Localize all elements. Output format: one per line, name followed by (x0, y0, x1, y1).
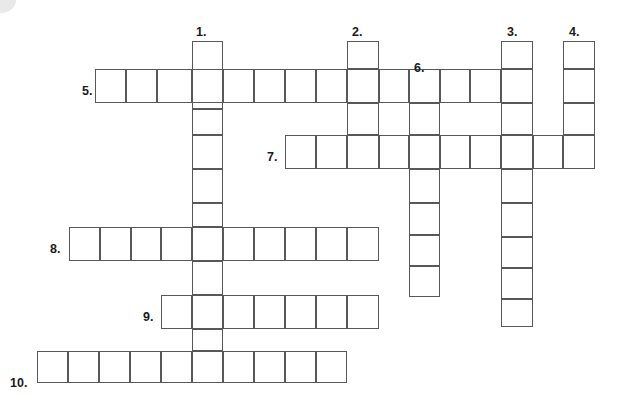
crossword-cell-across-10[interactable] (254, 351, 285, 383)
crossword-cell-across-5[interactable] (223, 69, 254, 103)
crossword-cell-down-1[interactable] (192, 109, 223, 135)
crossword-cell-across-8[interactable] (192, 227, 223, 261)
crossword-cell-down-6[interactable] (409, 266, 440, 297)
crossword-cell-down-3[interactable] (501, 299, 533, 327)
clue-number-down-6: 6. (414, 62, 424, 75)
crossword-cell-across-10[interactable] (285, 351, 316, 383)
crossword-cell-across-9[interactable] (161, 295, 192, 329)
clue-number-across-9: 9. (143, 311, 153, 324)
crossword-cell-across-9[interactable] (285, 295, 316, 329)
crossword-cell-down-4[interactable] (563, 41, 595, 69)
crossword-cell-down-6[interactable] (409, 235, 440, 266)
crossword-cell-down-1[interactable] (192, 329, 223, 351)
crossword-cell-down-3[interactable] (501, 237, 533, 268)
crossword-cell-across-10[interactable] (99, 351, 130, 383)
crossword-cell-across-9[interactable] (223, 295, 254, 329)
crossword-cell-down-6[interactable] (409, 103, 440, 135)
crossword-cell-across-10[interactable] (130, 351, 161, 383)
crossword-cell-across-8[interactable] (69, 227, 100, 261)
crossword-cell-across-9[interactable] (316, 295, 347, 329)
clue-number-down-4: 4. (569, 26, 579, 39)
crossword-cell-across-8[interactable] (254, 227, 285, 261)
clue-number-across-5: 5. (82, 85, 92, 98)
crossword-cell-across-8[interactable] (223, 227, 254, 261)
crossword-cell-down-3[interactable] (501, 203, 533, 237)
crossword-cell-across-9[interactable] (192, 295, 223, 329)
crossword-cell-across-7[interactable] (285, 135, 316, 169)
crossword-cell-down-3[interactable] (501, 41, 533, 69)
crossword-cell-across-5[interactable] (254, 69, 285, 103)
clue-number-down-3: 3. (507, 26, 517, 39)
crossword-cell-down-4[interactable] (563, 69, 595, 103)
crossword-cell-across-5[interactable] (470, 69, 501, 103)
crossword-cell-down-1[interactable] (192, 203, 223, 227)
crossword-cell-across-10[interactable] (223, 351, 254, 383)
crossword-cell-across-5[interactable] (440, 69, 470, 103)
crossword-cell-across-5[interactable] (347, 69, 379, 103)
crossword-cell-down-6[interactable] (409, 169, 440, 203)
crossword-cell-across-5[interactable] (285, 69, 316, 103)
crossword-cell-across-8[interactable] (161, 227, 192, 261)
page-corner-shadow (0, 0, 16, 13)
crossword-cell-across-7[interactable] (533, 135, 563, 169)
crossword-cell-across-7[interactable] (563, 135, 595, 169)
crossword-cell-across-5[interactable] (126, 69, 157, 103)
crossword-cell-down-1[interactable] (192, 261, 223, 295)
crossword-cell-across-10[interactable] (68, 351, 99, 383)
crossword-cell-across-10[interactable] (37, 351, 68, 383)
crossword-cell-across-7[interactable] (379, 135, 409, 169)
crossword-cell-down-6[interactable] (409, 203, 440, 235)
clue-number-down-1: 1. (196, 26, 206, 39)
crossword-cell-across-5[interactable] (192, 69, 223, 103)
crossword-puzzle-grid: 1.2.3.4.5.6.7.8.9.10. (0, 0, 617, 416)
crossword-cell-across-8[interactable] (316, 227, 347, 261)
clue-number-across-8: 8. (50, 243, 60, 256)
crossword-cell-across-9[interactable] (254, 295, 285, 329)
crossword-cell-down-2[interactable] (347, 103, 379, 135)
crossword-cell-across-7[interactable] (316, 135, 347, 169)
crossword-cell-down-3[interactable] (501, 169, 533, 203)
crossword-cell-across-5[interactable] (316, 69, 347, 103)
crossword-cell-down-2[interactable] (347, 41, 379, 69)
crossword-cell-across-8[interactable] (131, 227, 161, 261)
crossword-cell-down-1[interactable] (192, 169, 223, 203)
crossword-cell-across-7[interactable] (470, 135, 501, 169)
crossword-cell-down-1[interactable] (192, 135, 223, 169)
crossword-cell-down-3[interactable] (501, 103, 533, 135)
clue-number-across-10: 10. (10, 377, 27, 390)
crossword-cell-across-8[interactable] (285, 227, 316, 261)
crossword-cell-across-5[interactable] (157, 69, 192, 103)
crossword-cell-across-7[interactable] (347, 135, 379, 169)
crossword-cell-down-3[interactable] (501, 268, 533, 299)
crossword-cell-across-7[interactable] (409, 135, 440, 169)
crossword-cell-across-5[interactable] (379, 69, 409, 103)
crossword-cell-across-10[interactable] (192, 351, 223, 383)
clue-number-across-7: 7. (267, 151, 277, 164)
crossword-cell-across-7[interactable] (440, 135, 470, 169)
crossword-cell-across-7[interactable] (501, 135, 533, 169)
crossword-cell-across-10[interactable] (316, 351, 347, 383)
crossword-cell-across-9[interactable] (347, 295, 379, 329)
crossword-cell-down-4[interactable] (563, 103, 595, 135)
crossword-cell-across-8[interactable] (100, 227, 131, 261)
crossword-cell-across-5[interactable] (501, 69, 533, 103)
crossword-cell-across-8[interactable] (347, 227, 379, 261)
crossword-cell-across-10[interactable] (161, 351, 192, 383)
clue-number-down-2: 2. (352, 26, 362, 39)
crossword-cell-across-5[interactable] (95, 69, 126, 103)
